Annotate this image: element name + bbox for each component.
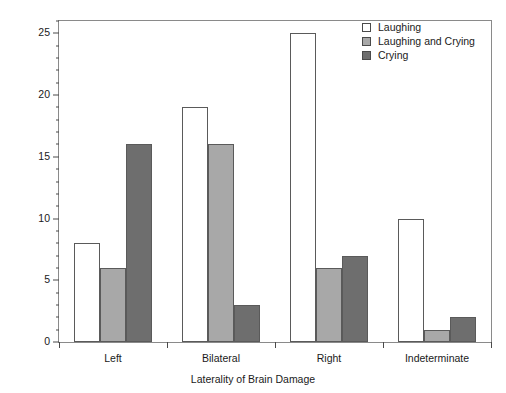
bar xyxy=(126,144,152,342)
y-tick-label: 20 xyxy=(38,88,50,100)
bar xyxy=(424,330,450,342)
legend-item: Laughing and Crying xyxy=(362,36,475,47)
x-axis-tick xyxy=(491,342,492,348)
y-tick-mark xyxy=(53,33,59,34)
plot-area: 0510152025LeftBilateralRightIndeterminat… xyxy=(58,20,492,343)
x-axis-tick xyxy=(59,342,60,348)
y-tick-label: 0 xyxy=(44,335,50,347)
bar xyxy=(74,243,100,342)
legend-label: Laughing and Crying xyxy=(378,36,475,47)
bar xyxy=(234,305,260,342)
legend-swatch-icon xyxy=(362,23,371,32)
y-tick-label: 15 xyxy=(38,150,50,162)
x-tick-label: Right xyxy=(317,352,342,364)
x-axis-tick xyxy=(167,342,168,348)
bar xyxy=(398,219,424,342)
legend-label: Laughing xyxy=(378,22,421,33)
y-tick-mark xyxy=(53,156,59,157)
legend-item: Crying xyxy=(362,50,475,61)
y-tick-label: 25 xyxy=(38,26,50,38)
bar xyxy=(100,268,126,342)
x-tick-label: Left xyxy=(104,352,122,364)
bar xyxy=(316,268,342,342)
chart-legend: LaughingLaughing and CryingCrying xyxy=(362,22,475,61)
bar xyxy=(290,33,316,342)
y-tick-label: 10 xyxy=(38,212,50,224)
x-axis-tick xyxy=(383,342,384,348)
bar-chart: Number of Patients 0510152025LeftBilater… xyxy=(0,0,506,393)
legend-swatch-icon xyxy=(362,37,371,46)
bar xyxy=(450,317,476,342)
bar xyxy=(208,144,234,342)
legend-item: Laughing xyxy=(362,22,475,33)
y-tick-mark xyxy=(53,280,59,281)
y-tick-mark xyxy=(53,95,59,96)
y-tick-label: 5 xyxy=(44,273,50,285)
x-axis-tick xyxy=(275,342,276,348)
x-tick-label: Bilateral xyxy=(202,352,240,364)
x-tick-label: Indeterminate xyxy=(405,352,469,364)
legend-label: Crying xyxy=(378,50,408,61)
x-axis-title: Laterality of Brain Damage xyxy=(0,373,506,385)
bar xyxy=(342,256,368,342)
legend-swatch-icon xyxy=(362,51,371,60)
y-tick-mark xyxy=(53,218,59,219)
bar xyxy=(182,107,208,342)
